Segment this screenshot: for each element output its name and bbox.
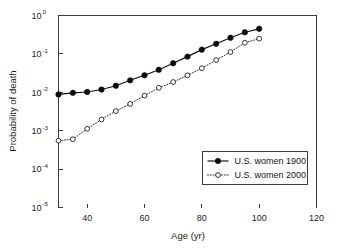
x-tick-label: 60: [139, 213, 149, 223]
legend-sample-marker: [215, 158, 220, 163]
data-point-marker: [199, 66, 204, 71]
data-point-marker: [128, 101, 133, 106]
y-tick-label-exponent: -4: [43, 162, 49, 169]
y-tick-label-exponent: -3: [43, 124, 49, 131]
x-axis-title: Age (yr): [171, 230, 205, 241]
data-point-marker: [185, 54, 190, 59]
data-point-marker: [213, 41, 218, 46]
x-axis-tick-labels: 406080100120: [82, 213, 324, 223]
data-point-marker: [171, 80, 176, 85]
y-tick-label-exponent: -2: [43, 85, 49, 92]
data-point-marker: [185, 73, 190, 78]
data-point-marker: [142, 73, 147, 78]
probability-of-death-chart: 10010-110-210-310-410-5 406080100120 Pro…: [0, 0, 340, 252]
legend-label: U.S. women 2000: [235, 170, 307, 180]
data-point-marker: [257, 36, 262, 41]
data-point-marker: [99, 87, 104, 92]
data-series-group: [56, 26, 262, 143]
y-tick-label: 10-3: [31, 124, 48, 137]
data-point-marker: [56, 138, 61, 143]
data-point-marker: [170, 61, 175, 66]
x-axis-ticks: [87, 204, 316, 208]
data-point-marker: [242, 40, 247, 45]
y-tick-label: 10-2: [31, 85, 48, 98]
data-point-marker: [85, 126, 90, 131]
legend-label: U.S. women 1900: [235, 156, 307, 166]
y-tick-label-base: 10: [31, 203, 41, 213]
data-point-marker: [70, 137, 75, 142]
chart-legend: U.S. women 1900U.S. women 2000: [203, 152, 308, 185]
data-point-marker: [127, 78, 132, 83]
data-point-marker: [56, 92, 61, 97]
data-point-marker: [214, 58, 219, 63]
y-axis-tick-labels: 10010-110-210-310-410-5: [31, 8, 48, 213]
data-point-marker: [156, 67, 161, 72]
data-point-marker: [113, 83, 118, 88]
y-axis-title: Probability of death: [7, 70, 18, 151]
y-axis-ticks: [59, 16, 63, 208]
data-point-marker: [142, 93, 147, 98]
x-tick-label: 80: [197, 213, 207, 223]
y-tick-label-base: 10: [31, 164, 41, 174]
data-point-marker: [113, 109, 118, 114]
x-tick-label: 120: [309, 213, 324, 223]
data-point-marker: [84, 89, 89, 94]
data-point-marker: [228, 35, 233, 40]
data-point-marker: [156, 85, 161, 90]
y-tick-label-exponent: -1: [43, 47, 49, 54]
data-point-marker: [99, 117, 104, 122]
data-point-marker: [256, 26, 261, 31]
figure-container: 10010-110-210-310-410-5 406080100120 Pro…: [0, 0, 340, 252]
y-tick-label-exponent: 0: [43, 8, 47, 15]
y-tick-label-base: 10: [31, 126, 41, 136]
data-point-marker: [228, 50, 233, 55]
x-tick-label: 100: [252, 213, 267, 223]
x-axis-title-group: Age (yr): [171, 230, 205, 241]
y-tick-label: 100: [31, 8, 46, 20]
legend-sample-marker: [216, 173, 221, 178]
y-tick-label-base: 10: [31, 88, 41, 98]
y-tick-label: 10-1: [31, 47, 48, 60]
y-tick-label: 10-5: [31, 200, 48, 213]
y-axis-title-group: Probability of death: [7, 70, 18, 151]
x-tick-label: 40: [82, 213, 92, 223]
data-point-marker: [70, 90, 75, 95]
data-point-marker: [199, 47, 204, 52]
y-tick-label-base: 10: [31, 11, 41, 21]
y-tick-label-exponent: -5: [43, 200, 49, 207]
data-point-marker: [242, 30, 247, 35]
y-tick-label-base: 10: [31, 49, 41, 59]
y-tick-label: 10-4: [31, 162, 48, 175]
